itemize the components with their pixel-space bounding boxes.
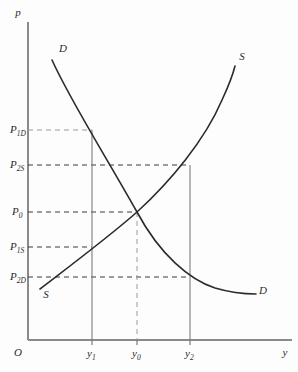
quantity-guide-lines [92,130,190,340]
price-guide-lines [28,130,190,277]
price-label-p2d: P2D [9,270,26,285]
price-label-p0: P0 [11,205,23,220]
quantity-label-y1: y1 [86,347,96,362]
origin-label: O [14,346,22,358]
price-label-p2s: P2S [9,158,24,173]
quantity-label-y0: y0 [131,347,141,362]
supply-curve [40,66,235,289]
quantity-axis-labels: y1 y0 y2 [86,347,194,362]
demand-curve-bottom-label: D [258,284,267,296]
axes-group [28,22,292,340]
quantity-label-y2: y2 [184,347,194,362]
supply-curve-bottom-label: S [43,288,49,300]
supply-curve-top-label: S [239,50,245,62]
price-label-p1s: P1S [9,240,24,255]
supply-demand-diagram: p y O D D S S P1D P2S P0 P1S P2D y1 y0 y… [0,0,298,372]
chart-canvas: p y O D D S S P1D P2S P0 P1S P2D y1 y0 y… [0,0,298,372]
x-axis-label: y [282,346,288,358]
price-axis-labels: P1D P2S P0 P1S P2D [9,123,26,285]
y-axis-label: p [14,6,21,18]
demand-curve [52,60,256,294]
price-label-p1d: P1D [9,123,26,138]
demand-curve-top-label: D [58,42,67,54]
